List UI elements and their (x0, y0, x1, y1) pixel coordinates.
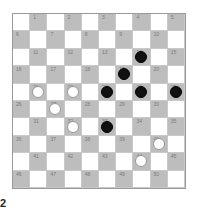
square-33[interactable]: 33 (99, 118, 116, 135)
square-17[interactable]: 17 (47, 66, 64, 83)
square-2[interactable]: 2 (65, 14, 82, 31)
black-piece[interactable] (118, 68, 130, 80)
white-piece[interactable] (67, 121, 79, 133)
light-square (133, 136, 150, 153)
square-49[interactable]: 49 (116, 171, 133, 188)
square-number: 35 (171, 119, 177, 124)
square-5[interactable]: 5 (168, 14, 185, 31)
black-piece[interactable] (170, 86, 182, 98)
square-7[interactable]: 7 (47, 31, 64, 48)
square-8[interactable]: 8 (82, 31, 99, 48)
square-26[interactable]: 26 (13, 101, 30, 118)
square-number: 30 (154, 102, 160, 107)
square-27[interactable]: 27 (47, 101, 64, 118)
white-piece[interactable] (67, 86, 79, 98)
square-11[interactable]: 11 (30, 49, 47, 66)
light-square (168, 136, 185, 153)
light-square (30, 66, 47, 83)
square-13[interactable]: 13 (99, 49, 116, 66)
light-square (13, 49, 30, 66)
square-43[interactable]: 43 (99, 153, 116, 170)
square-12[interactable]: 12 (65, 49, 82, 66)
light-square (151, 118, 168, 135)
square-25[interactable]: 25 (168, 84, 185, 101)
square-20[interactable]: 20 (151, 66, 168, 83)
white-piece[interactable] (49, 103, 61, 115)
light-square (65, 101, 82, 118)
square-number: 6 (16, 32, 19, 37)
square-number: 5 (171, 15, 174, 20)
square-23[interactable]: 23 (99, 84, 116, 101)
square-29[interactable]: 29 (116, 101, 133, 118)
square-44[interactable]: 44 (133, 153, 150, 170)
square-number: 39 (119, 137, 125, 142)
square-number: 43 (102, 154, 108, 159)
square-31[interactable]: 31 (30, 118, 47, 135)
square-48[interactable]: 48 (82, 171, 99, 188)
white-piece[interactable] (153, 138, 165, 150)
square-28[interactable]: 28 (82, 101, 99, 118)
square-number: 2 (68, 15, 71, 20)
square-number: 48 (85, 172, 91, 177)
square-24[interactable]: 24 (133, 84, 150, 101)
square-47[interactable]: 47 (47, 171, 64, 188)
square-number: 16 (16, 67, 22, 72)
square-number: 29 (119, 102, 125, 107)
black-piece[interactable] (135, 86, 147, 98)
square-6[interactable]: 6 (13, 31, 30, 48)
light-square (65, 66, 82, 83)
square-50[interactable]: 50 (151, 171, 168, 188)
square-number: 10 (154, 32, 160, 37)
light-square (151, 14, 168, 31)
square-39[interactable]: 39 (116, 136, 133, 153)
light-square (47, 118, 64, 135)
square-number: 46 (16, 172, 22, 177)
square-35[interactable]: 35 (168, 118, 185, 135)
light-square (30, 31, 47, 48)
light-square (133, 171, 150, 188)
square-45[interactable]: 45 (168, 153, 185, 170)
square-32[interactable]: 32 (65, 118, 82, 135)
white-piece[interactable] (135, 155, 147, 167)
square-19[interactable]: 19 (116, 66, 133, 83)
square-42[interactable]: 42 (65, 153, 82, 170)
square-4[interactable]: 4 (133, 14, 150, 31)
light-square (30, 136, 47, 153)
square-34[interactable]: 34 (133, 118, 150, 135)
square-22[interactable]: 22 (65, 84, 82, 101)
square-40[interactable]: 40 (151, 136, 168, 153)
square-number: 17 (50, 67, 56, 72)
white-piece[interactable] (32, 86, 44, 98)
square-number: 13 (102, 50, 108, 55)
square-21[interactable]: 21 (30, 84, 47, 101)
square-number: 31 (33, 119, 39, 124)
square-9[interactable]: 9 (116, 31, 133, 48)
light-square (168, 66, 185, 83)
square-15[interactable]: 15 (168, 49, 185, 66)
light-square (47, 14, 64, 31)
square-38[interactable]: 38 (82, 136, 99, 153)
black-piece[interactable] (135, 51, 147, 63)
square-16[interactable]: 16 (13, 66, 30, 83)
black-piece[interactable] (101, 86, 113, 98)
square-number: 49 (119, 172, 125, 177)
light-square (151, 84, 168, 101)
square-10[interactable]: 10 (151, 31, 168, 48)
light-square (168, 171, 185, 188)
black-piece[interactable] (101, 121, 113, 133)
square-18[interactable]: 18 (82, 66, 99, 83)
light-square (13, 153, 30, 170)
light-square (151, 49, 168, 66)
square-number: 12 (68, 50, 74, 55)
square-number: 45 (171, 154, 177, 159)
light-square (151, 153, 168, 170)
square-36[interactable]: 36 (13, 136, 30, 153)
square-1[interactable]: 1 (30, 14, 47, 31)
light-square (82, 14, 99, 31)
square-30[interactable]: 30 (151, 101, 168, 118)
square-41[interactable]: 41 (30, 153, 47, 170)
square-14[interactable]: 14 (133, 49, 150, 66)
square-3[interactable]: 3 (99, 14, 116, 31)
square-37[interactable]: 37 (47, 136, 64, 153)
square-46[interactable]: 46 (13, 171, 30, 188)
